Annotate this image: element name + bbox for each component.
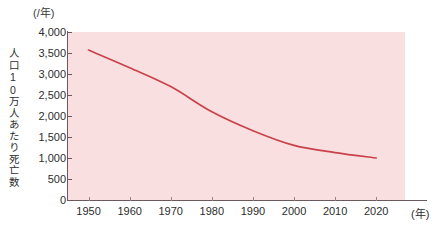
- x-tick-mark: [130, 197, 131, 201]
- y-tick-label: 1,000: [30, 152, 66, 164]
- y-tick-label: 500: [30, 173, 66, 185]
- x-tick-label: 2000: [282, 205, 306, 217]
- y-tick-label: 0: [30, 194, 66, 206]
- x-tick-label: 1990: [241, 205, 265, 217]
- y-tick-mark: [68, 158, 72, 159]
- x-tick-mark: [253, 197, 254, 201]
- x-axis-unit-caption: (年): [411, 205, 429, 221]
- y-tick-label: 3,500: [30, 47, 66, 59]
- y-tick-mark: [68, 95, 72, 96]
- y-tick-label: 2,500: [30, 89, 66, 101]
- y-axis-title: 人口10万人あたり死亡数: [2, 48, 18, 188]
- y-tick-label: 2,000: [30, 110, 66, 122]
- y-tick-mark: [68, 200, 72, 201]
- y-axis-tick-labels: 05001,0001,5002,0002,5003,0003,5004,000: [26, 0, 66, 232]
- x-axis-line: [67, 200, 427, 201]
- y-tick-label: 4,000: [30, 26, 66, 38]
- x-tick-mark: [335, 197, 336, 201]
- y-tick-mark: [68, 32, 72, 33]
- x-tick-mark: [294, 197, 295, 201]
- y-tick-label: 1,500: [30, 131, 66, 143]
- y-tick-mark: [68, 74, 72, 75]
- x-tick-mark: [376, 197, 377, 201]
- x-tick-label: 2020: [364, 205, 388, 217]
- y-tick-label: 3,000: [30, 68, 66, 80]
- y-tick-mark: [68, 137, 72, 138]
- x-tick-mark: [171, 197, 172, 201]
- y-tick-mark: [68, 116, 72, 117]
- x-tick-mark: [212, 197, 213, 201]
- x-tick-label: 1950: [76, 205, 100, 217]
- x-tick-label: 1980: [200, 205, 224, 217]
- chart-container: (/年) 人口10万人あたり死亡数 05001,0001,5002,0002,5…: [0, 0, 438, 232]
- x-tick-label: 1970: [158, 205, 182, 217]
- plot-area: [68, 32, 405, 200]
- x-tick-label: 1960: [117, 205, 141, 217]
- x-tick-mark: [89, 197, 90, 201]
- x-tick-label: 2010: [323, 205, 347, 217]
- y-tick-mark: [68, 53, 72, 54]
- y-tick-mark: [68, 179, 72, 180]
